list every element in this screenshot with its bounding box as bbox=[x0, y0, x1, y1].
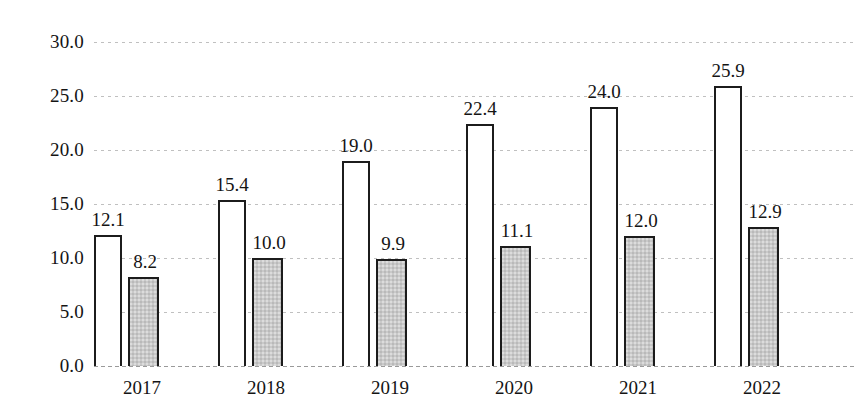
bar-series-1 bbox=[218, 200, 246, 366]
bar-value-label: 15.4 bbox=[200, 175, 264, 194]
bar-value-label: 22.4 bbox=[448, 99, 512, 118]
bar-value-label: 10.0 bbox=[240, 233, 298, 252]
y-tick-label: 5.0 bbox=[22, 302, 84, 321]
y-tick-label: 0.0 bbox=[22, 356, 84, 375]
bar-group: 25.912.9 bbox=[700, 46, 824, 366]
bars-row: 15.410.0 bbox=[204, 46, 328, 366]
bar-value-label: 9.9 bbox=[364, 234, 422, 253]
bar-value-label: 12.0 bbox=[612, 211, 670, 230]
bar-group: 15.410.0 bbox=[204, 46, 328, 366]
bars-row: 25.912.9 bbox=[700, 46, 824, 366]
y-tick-label: 20.0 bbox=[22, 140, 84, 159]
bars-row: 19.09.9 bbox=[328, 46, 452, 366]
bar-series-2 bbox=[252, 258, 283, 366]
bar-value-label: 8.2 bbox=[116, 252, 174, 271]
bar-series-1 bbox=[342, 161, 370, 366]
bar-series-1 bbox=[590, 107, 618, 366]
y-tick-label: 10.0 bbox=[22, 248, 84, 267]
bar-series-2 bbox=[500, 246, 531, 366]
bar-group: 24.012.0 bbox=[576, 46, 700, 366]
y-axis: 0.05.010.015.020.025.030.0 bbox=[22, 0, 84, 420]
x-tick-label: 2017 bbox=[80, 378, 204, 397]
y-tick-label: 15.0 bbox=[22, 194, 84, 213]
x-tick-label: 2022 bbox=[700, 378, 824, 397]
bar-group: 12.18.2 bbox=[80, 46, 204, 366]
bar-value-label: 25.9 bbox=[696, 61, 760, 80]
x-tick-label: 2020 bbox=[452, 378, 576, 397]
bar-group: 19.09.9 bbox=[328, 46, 452, 366]
bar-value-label: 12.1 bbox=[76, 210, 140, 229]
bar-series-2 bbox=[376, 259, 407, 366]
bar-series-2 bbox=[748, 227, 779, 366]
bars-row: 24.012.0 bbox=[576, 46, 700, 366]
gridline bbox=[94, 42, 854, 43]
bar-value-label: 11.1 bbox=[488, 221, 546, 240]
bars-row: 22.411.1 bbox=[452, 46, 576, 366]
axis-baseline bbox=[94, 366, 854, 367]
y-tick-label: 30.0 bbox=[22, 32, 84, 51]
bar-value-label: 12.9 bbox=[736, 202, 794, 221]
bar-series-2 bbox=[624, 236, 655, 366]
x-tick-label: 2018 bbox=[204, 378, 328, 397]
bar-value-label: 19.0 bbox=[324, 136, 388, 155]
bar-series-1 bbox=[714, 86, 742, 366]
x-tick-label: 2021 bbox=[576, 378, 700, 397]
bar-value-label: 24.0 bbox=[572, 82, 636, 101]
bar-group: 22.411.1 bbox=[452, 46, 576, 366]
x-tick-label: 2019 bbox=[328, 378, 452, 397]
bar-series-2 bbox=[128, 277, 159, 366]
bar-chart: 0.05.010.015.020.025.030.0 12.18.215.410… bbox=[0, 0, 865, 420]
y-tick-label: 25.0 bbox=[22, 86, 84, 105]
plot-area: 0.05.010.015.020.025.030.0 12.18.215.410… bbox=[0, 0, 865, 420]
bars-row: 12.18.2 bbox=[80, 46, 204, 366]
bar-series-1 bbox=[466, 124, 494, 366]
